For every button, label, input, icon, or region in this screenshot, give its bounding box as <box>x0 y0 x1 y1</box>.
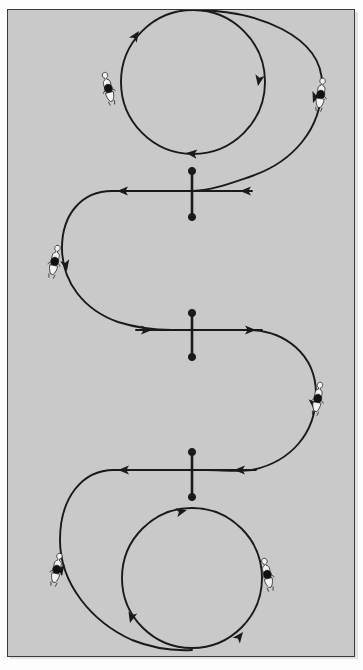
diagram-page: Serpentine with circles dressage pattern <box>0 0 363 670</box>
arena-plate <box>7 9 355 657</box>
plate-shadow-right <box>355 12 358 658</box>
